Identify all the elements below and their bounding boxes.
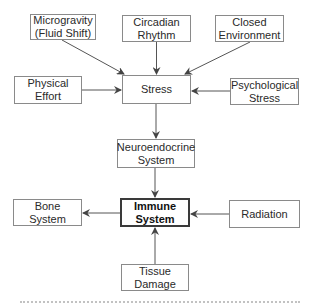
node-physical-effort: Physical Effort bbox=[14, 76, 82, 104]
node-immune-system: Immune System bbox=[120, 198, 190, 227]
node-microgravity: Microgravity (Fluid Shift) bbox=[30, 14, 96, 40]
truncated-caption bbox=[20, 301, 300, 305]
arrow-closed-environment-to-stress bbox=[185, 42, 250, 74]
node-closed-environment: Closed Environment bbox=[215, 15, 284, 42]
node-psychological-stress: Psychological Stress bbox=[230, 78, 299, 105]
stress-immune-flow-diagram: Microgravity (Fluid Shift) Circadian Rhy… bbox=[0, 0, 314, 305]
node-bone-system: Bone System bbox=[13, 199, 82, 226]
node-radiation: Radiation bbox=[229, 200, 300, 228]
arrow-microgravity-to-stress bbox=[62, 40, 124, 74]
node-stress: Stress bbox=[122, 75, 191, 104]
node-circadian-rhythm: Circadian Rhythm bbox=[122, 15, 191, 42]
node-neuroendocrine-system: Neuroendocrine System bbox=[117, 139, 195, 168]
node-tissue-damage: Tissue Damage bbox=[121, 264, 189, 291]
